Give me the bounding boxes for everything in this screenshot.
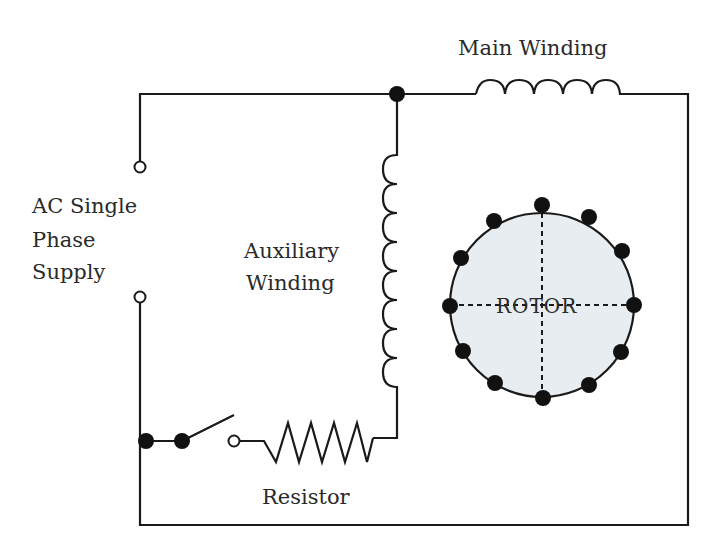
aux-winding-coil xyxy=(373,94,397,438)
main-winding-label: Main Winding xyxy=(458,35,608,61)
top-wire xyxy=(140,94,476,166)
junction-dot xyxy=(389,86,405,102)
supply-label-line2: Phase xyxy=(32,227,95,253)
switch-contact xyxy=(229,436,240,447)
aux-winding-label-line1: Auxiliary xyxy=(244,238,339,264)
rotor-label: ROTOR xyxy=(496,293,577,319)
supply-label-line3: Supply xyxy=(32,259,105,285)
switch-blade xyxy=(182,415,234,441)
resistor-zigzag xyxy=(240,423,373,462)
resistor-label: Resistor xyxy=(262,484,350,510)
circuit-diagram: Main Winding AC Single Phase Supply Auxi… xyxy=(0,0,726,543)
supply-label-line1: AC Single xyxy=(32,193,137,219)
aux-winding-label-line2: Winding xyxy=(246,270,335,296)
junction-dot xyxy=(138,433,154,449)
supply-terminal-top xyxy=(135,162,146,173)
switch-pivot-dot xyxy=(174,433,190,449)
supply-terminal-bottom xyxy=(135,292,146,303)
circuit-svg xyxy=(0,0,726,543)
supply-lower-wire xyxy=(140,303,182,441)
